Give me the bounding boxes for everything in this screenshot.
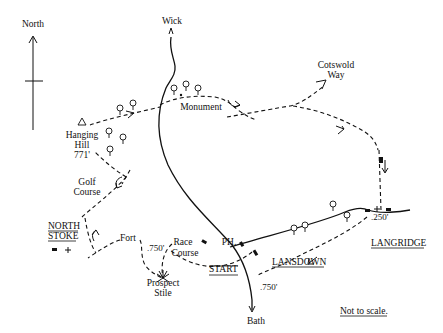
tree-icons (106, 81, 350, 235)
building-icon (201, 239, 207, 244)
tree-icon (120, 134, 126, 144)
church-cross-icon (65, 247, 71, 253)
building-icon (379, 157, 383, 163)
bath-label: Bath (247, 316, 265, 326)
hanging-hill-label-1: Hanging (66, 130, 99, 140)
tree-icon (130, 100, 136, 110)
tree-icon (107, 146, 113, 156)
cotswold-way-label-2: Way (327, 70, 344, 80)
tree-icon (344, 212, 350, 222)
lansdown-label: LANSDOWN (272, 257, 326, 267)
prospect-stile-label-1: Prospect (147, 278, 180, 288)
tree-icon (302, 222, 308, 232)
walking-route (82, 85, 381, 278)
road-wick-bath (159, 37, 252, 310)
route-map: North (0, 0, 443, 333)
road-height: .750' (260, 282, 278, 292)
building-icon (253, 249, 259, 256)
wick-arrow-icon (169, 28, 173, 34)
scale-note: Not to scale. (340, 306, 388, 316)
race-course-label-2: Course (172, 248, 199, 258)
prospect-stile-label-2: Stile (154, 288, 171, 298)
tree-icon (291, 225, 297, 235)
direction-arrow-icon (92, 80, 388, 264)
langridge-height: .250' (371, 212, 389, 222)
monument-icon (180, 94, 182, 96)
building-icon (386, 208, 391, 211)
start-label: START (209, 264, 238, 274)
tree-icon (330, 201, 336, 211)
trig-point-icon (78, 118, 86, 125)
golf-course-label-1: Golf (78, 177, 96, 187)
cotswold-way-label-1: Cotswold (318, 60, 355, 70)
fort-label: Fort (120, 233, 136, 243)
fort-height: .750' (147, 243, 165, 253)
hanging-hill-height: 771' (74, 150, 90, 160)
tree-icon (195, 85, 201, 95)
north-stoke-label-2: STOKE (48, 231, 79, 241)
race-course-label-1: Race (174, 237, 193, 247)
tree-icon (183, 81, 189, 91)
langridge-label: LANGRIDGE (371, 238, 427, 248)
north-arrow-icon (25, 36, 43, 130)
north-stoke-label-1: NORTH (48, 221, 80, 231)
hanging-hill-label-2: Hill (75, 140, 90, 150)
building-icon (52, 248, 57, 251)
wick-label: Wick (162, 16, 182, 26)
golf-course-label-2: Course (74, 187, 101, 197)
tree-icon (106, 128, 112, 138)
monument-label: Monument (180, 102, 222, 112)
building-icon (365, 209, 370, 212)
pub-label: PH. (222, 237, 237, 247)
tree-icon (171, 85, 177, 95)
tree-icon (117, 105, 123, 115)
north-label: North (22, 19, 44, 29)
